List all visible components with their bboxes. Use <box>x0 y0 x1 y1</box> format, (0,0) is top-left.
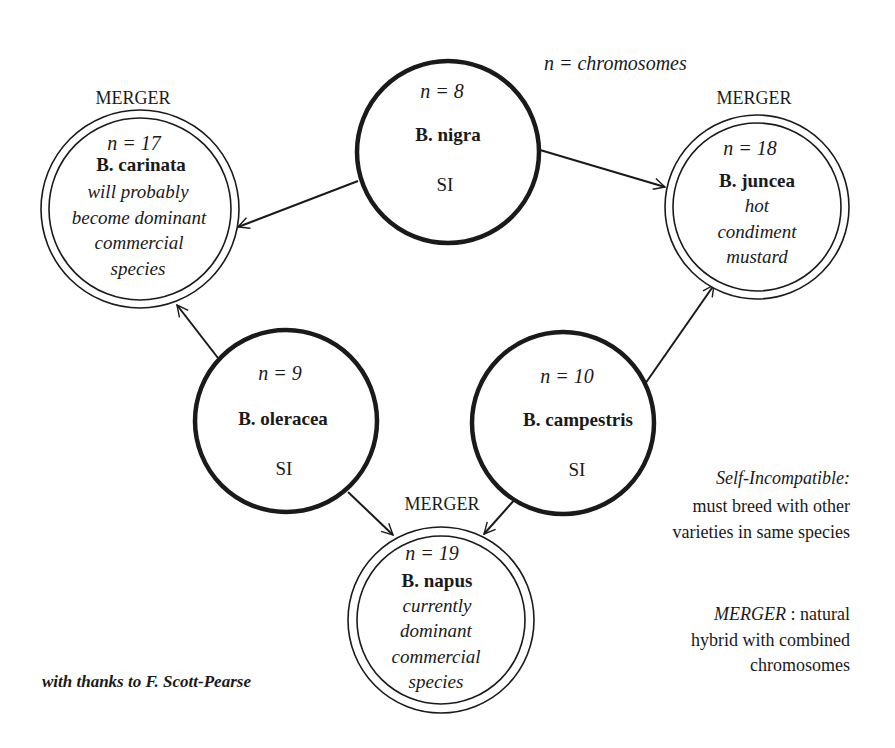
edge-oleracea-to-carinata <box>177 305 218 358</box>
species-name: B. carinata <box>96 154 186 175</box>
si-tag: SI <box>276 458 293 479</box>
legend-si-line: varieties in same species <box>673 522 850 542</box>
legend-si-line: must breed with other <box>693 496 850 516</box>
credit-text: with thanks to F. Scott-Pearse <box>42 672 251 691</box>
si-tag: SI <box>569 459 586 480</box>
species-desc-line: commercial <box>392 646 481 667</box>
species-name: B. juncea <box>719 170 796 191</box>
species-desc-line: hot <box>745 195 770 216</box>
species-desc-line: species <box>111 258 166 279</box>
si-tag: SI <box>437 174 454 195</box>
species-desc-line: commercial <box>95 232 184 253</box>
chromosome-count: n = 19 <box>405 542 459 564</box>
species-name: B. nigra <box>415 124 481 145</box>
node-oleracea: n = 9 B. oleracea SI <box>195 330 377 512</box>
node-campestris: n = 10 B. campestris SI <box>472 332 654 514</box>
brassica-triangle-diagram: n = 8 B. nigra SI n = 9 B. oleracea SI n… <box>0 0 895 748</box>
species-desc-line: species <box>409 671 464 692</box>
merger-label: MERGER <box>95 88 170 108</box>
chromosome-count: n = 17 <box>107 132 161 154</box>
merger-label: MERGER <box>716 88 791 108</box>
edge-campestris-to-napus <box>484 497 517 534</box>
edge-nigra-to-carinata <box>238 181 358 227</box>
chromosome-key-note: n = chromosomes <box>544 52 687 74</box>
edge-oleracea-to-napus <box>348 492 393 535</box>
edge-campestris-to-juncea <box>645 285 714 384</box>
chromosome-count: n = 8 <box>420 80 464 102</box>
legend-merger-first: : natural <box>786 604 850 624</box>
node-napus: MERGER n = 19 B. napus currently dominan… <box>348 494 534 713</box>
legend: Self-Incompatible: must breed with other… <box>673 468 850 675</box>
node-juncea: MERGER n = 18 B. juncea hot condiment mu… <box>665 88 849 299</box>
species-desc-line: dominant <box>400 620 473 641</box>
legend-si-term: Self-Incompatible: <box>716 468 850 488</box>
legend-merger-line: chromosomes <box>750 655 850 675</box>
node-carinata: MERGER n = 17 B. carinata will probably … <box>41 88 239 308</box>
legend-merger-line: hybrid with combined <box>691 630 850 650</box>
merger-label: MERGER <box>404 494 479 514</box>
species-name: B. oleracea <box>238 408 328 429</box>
chromosome-count: n = 18 <box>723 137 777 159</box>
chromosome-count: n = 10 <box>540 365 594 387</box>
legend-merger-line: MERGER : natural <box>713 604 850 624</box>
species-desc-line: will probably <box>87 181 189 202</box>
species-name: B. campestris <box>523 409 633 430</box>
legend-merger-term: MERGER <box>713 604 786 624</box>
species-desc-line: become dominant <box>72 207 207 228</box>
species-desc-line: mustard <box>726 246 788 267</box>
species-name: B. napus <box>402 570 473 591</box>
species-desc-line: condiment <box>717 221 797 242</box>
chromosome-count: n = 9 <box>258 362 302 384</box>
edge-nigra-to-juncea <box>540 150 665 187</box>
node-nigra: n = 8 B. nigra SI <box>357 61 539 243</box>
species-desc-line: currently <box>403 595 473 616</box>
